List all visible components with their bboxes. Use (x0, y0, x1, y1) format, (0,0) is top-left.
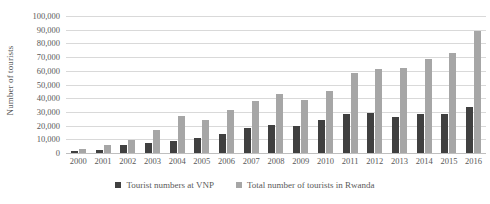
legend-label: Tourist numbers at VNP (126, 181, 213, 190)
bar (343, 114, 350, 153)
x-axis-tick-labels: 2000200120022003200420052006200720082009… (66, 153, 486, 169)
bar-group (91, 16, 116, 153)
x-axis-tick-label: 2006 (214, 153, 239, 169)
bar-chart: Number of tourists 100,00090,00080,00070… (0, 0, 490, 204)
y-axis-tick-label: 70,000 (37, 53, 60, 62)
bar (466, 107, 473, 153)
bar (425, 59, 432, 153)
y-axis-tick-label: 90,000 (37, 25, 60, 34)
bar (202, 120, 209, 153)
bar (351, 73, 358, 153)
x-axis-tick-label: 2000 (66, 153, 91, 169)
y-axis-title: Number of tourists (0, 0, 22, 160)
x-axis-tick-label: 2012 (362, 153, 387, 169)
bar (252, 101, 259, 153)
bar (318, 120, 325, 153)
bar-group (338, 16, 363, 153)
bar (276, 94, 283, 153)
x-axis-tick-label: 2005 (190, 153, 215, 169)
bar (178, 116, 185, 153)
legend-item[interactable]: Total number of tourists in Rwanda (236, 181, 375, 190)
bar (219, 134, 226, 153)
bar-group (288, 16, 313, 153)
bar (128, 140, 135, 153)
bar-group (387, 16, 412, 153)
x-axis-tick-label: 2015 (437, 153, 462, 169)
bar (417, 114, 424, 153)
chart-legend: Tourist numbers at VNPTotal number of to… (0, 176, 490, 194)
x-axis-tick-label: 2001 (91, 153, 116, 169)
bar (104, 145, 111, 153)
bar-group (437, 16, 462, 153)
bar-group (264, 16, 289, 153)
x-axis-tick-label: 2004 (165, 153, 190, 169)
x-axis-tick-label: 2014 (412, 153, 437, 169)
legend-item[interactable]: Tourist numbers at VNP (115, 181, 213, 190)
y-axis-tick-label: 50,000 (37, 80, 60, 89)
bar (400, 68, 407, 153)
bar (145, 143, 152, 153)
bar (392, 117, 399, 153)
bar (170, 141, 177, 153)
plot-area (66, 16, 486, 153)
x-axis-tick-label: 2009 (288, 153, 313, 169)
x-axis-tick-label: 2016 (461, 153, 486, 169)
bar-series-container (66, 16, 486, 153)
y-axis-tick-label: 0 (56, 149, 60, 158)
square-marker-icon (115, 182, 121, 188)
bar-group (66, 16, 91, 153)
bar-group (412, 16, 437, 153)
y-axis-tick-label: 10,000 (37, 135, 60, 144)
legend-label: Total number of tourists in Rwanda (247, 181, 375, 190)
x-axis-tick-label: 2007 (239, 153, 264, 169)
bar (268, 125, 275, 153)
bar (293, 126, 300, 153)
x-axis-tick-label: 2008 (264, 153, 289, 169)
square-marker-icon (236, 182, 242, 188)
bar (449, 53, 456, 153)
bar (326, 91, 333, 153)
bar (301, 100, 308, 153)
bar (194, 138, 201, 153)
bar (120, 145, 127, 153)
x-axis-tick-label: 2013 (387, 153, 412, 169)
bar-group (140, 16, 165, 153)
y-axis-title-label: Number of tourists (7, 45, 16, 115)
bar-group (165, 16, 190, 153)
bar-group (190, 16, 215, 153)
x-axis-tick-label: 2003 (140, 153, 165, 169)
y-axis-tick-label: 20,000 (37, 121, 60, 130)
bar (153, 130, 160, 153)
y-axis-tick-label: 60,000 (37, 67, 60, 76)
bar-group (115, 16, 140, 153)
bar-group (461, 16, 486, 153)
bar (375, 69, 382, 153)
y-axis-tick-labels: 100,00090,00080,00070,00060,00050,00040,… (22, 8, 62, 153)
y-axis-tick-label: 80,000 (37, 39, 60, 48)
bar (227, 110, 234, 153)
bar (367, 113, 374, 153)
bar-group (239, 16, 264, 153)
bar-group (362, 16, 387, 153)
plot-wrapper: 100,00090,00080,00070,00060,00050,00040,… (22, 8, 486, 158)
bar (244, 128, 251, 153)
x-axis-tick-label: 2002 (115, 153, 140, 169)
y-axis-tick-label: 100,000 (32, 12, 60, 21)
bar (441, 114, 448, 153)
x-axis-tick-label: 2011 (338, 153, 363, 169)
x-axis-tick-label: 2010 (313, 153, 338, 169)
y-axis-tick-label: 30,000 (37, 108, 60, 117)
bar-group (313, 16, 338, 153)
bar (474, 31, 481, 153)
bar-group (214, 16, 239, 153)
y-axis-tick-label: 40,000 (37, 94, 60, 103)
